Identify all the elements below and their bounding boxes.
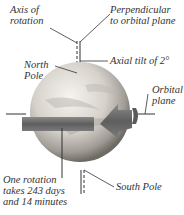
label-orbital-plane: Orbital plane — [152, 84, 183, 106]
label-line: takes 243 days — [3, 185, 67, 196]
orbital-plane-leader — [145, 94, 148, 114]
axis-rotation-leader — [50, 28, 77, 43]
label-line: One rotation — [3, 174, 67, 185]
label-one-rotation: One rotation takes 243 days and 14 minut… — [3, 174, 67, 207]
label-line: Orbital — [152, 84, 183, 95]
label-south-pole: South Pole — [116, 181, 162, 192]
label-line: North — [24, 59, 49, 70]
label-line: Perpendicular — [110, 4, 175, 15]
label-axial-tilt: Axial tilt of 2° — [110, 55, 169, 66]
label-line: Axis of — [10, 4, 43, 15]
rotation-arrow — [22, 117, 94, 131]
perpendicular-leader — [80, 14, 110, 42]
label-perpendicular: Perpendicular to orbital plane — [110, 4, 175, 26]
label-line: rotation — [10, 15, 43, 26]
label-north-pole: North Pole — [24, 59, 49, 81]
label-line: Pole — [24, 70, 49, 81]
label-line: to orbital plane — [110, 15, 175, 26]
label-line: plane — [152, 95, 183, 106]
label-axis-of-rotation: Axis of rotation — [10, 4, 43, 26]
label-line: and 14 minutes — [3, 196, 67, 207]
south-pole-leader — [84, 170, 114, 187]
